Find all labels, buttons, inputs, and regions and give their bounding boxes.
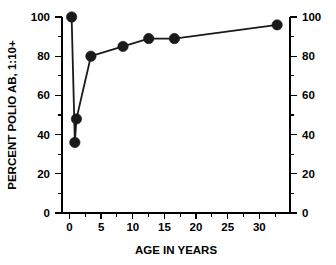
bottom-axis-major-ticks bbox=[70, 213, 260, 219]
x-axis-tick-label-20: 20 bbox=[190, 221, 203, 233]
data-point-marker bbox=[70, 137, 80, 147]
y-axis-tick-label-100: 100 bbox=[31, 11, 50, 23]
series-markers bbox=[66, 12, 282, 148]
data-series-percent-polio-antibody bbox=[66, 12, 282, 148]
x-axis-tick-label-25: 25 bbox=[221, 221, 234, 233]
y-axis-right-tick-label-100: 100 bbox=[302, 11, 321, 23]
chart-container: 0 20 40 60 80 100 0 20 40 60 80 100 0 5 … bbox=[0, 0, 336, 265]
y-axis-right-tick-label-40: 40 bbox=[302, 129, 315, 141]
polio-antibody-line-chart: 0 20 40 60 80 100 0 20 40 60 80 100 0 5 … bbox=[0, 0, 336, 265]
x-axis-tick-label-5: 5 bbox=[98, 221, 105, 233]
y-axis-right-tick-label-80: 80 bbox=[302, 50, 315, 62]
y-axis-tick-label-0: 0 bbox=[44, 207, 50, 219]
x-axis-tick-label-15: 15 bbox=[158, 221, 171, 233]
data-point-marker bbox=[144, 33, 154, 43]
data-point-marker bbox=[71, 114, 81, 124]
y-axis-tick-label-20: 20 bbox=[37, 168, 50, 180]
x-axis-tick-label-0: 0 bbox=[66, 221, 72, 233]
data-point-marker bbox=[86, 51, 96, 61]
data-point-marker bbox=[66, 12, 76, 22]
y-axis-right-tick-label-0: 0 bbox=[302, 207, 308, 219]
y-axis-right-tick-label-60: 60 bbox=[302, 89, 315, 101]
data-point-marker bbox=[169, 33, 179, 43]
data-point-marker bbox=[272, 20, 282, 30]
y-axis-tick-label-40: 40 bbox=[37, 129, 50, 141]
y-axis-right-tick-label-20: 20 bbox=[302, 168, 315, 180]
x-axis-title: AGE IN YEARS bbox=[135, 244, 218, 256]
y-axis-title: PERCENT POLIO AB, 1:10+ bbox=[6, 40, 18, 190]
x-axis-tick-label-10: 10 bbox=[126, 221, 139, 233]
data-point-marker bbox=[118, 41, 128, 51]
y-axis-tick-label-80: 80 bbox=[37, 50, 50, 62]
x-axis-tick-label-30: 30 bbox=[253, 221, 266, 233]
y-axis-tick-label-60: 60 bbox=[37, 89, 50, 101]
